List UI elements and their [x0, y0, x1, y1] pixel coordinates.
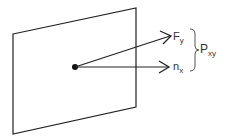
force-vector-arrow	[75, 31, 171, 67]
plane-parallelogram	[13, 8, 136, 134]
force-label: Fy	[173, 30, 184, 45]
diagram-canvas: Fy nx Pxy	[0, 0, 229, 140]
normal-label: nx	[173, 60, 183, 75]
curly-brace	[190, 29, 199, 71]
plane-label: Pxy	[200, 42, 216, 58]
